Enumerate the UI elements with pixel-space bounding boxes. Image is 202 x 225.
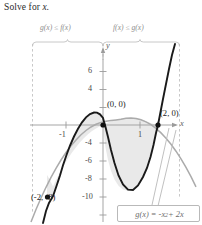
equation-text: g(x) = -x2 + 2x <box>118 206 201 223</box>
y-tick-label-neg4: -4 <box>85 138 92 147</box>
point-label-origin: (0, 0) <box>107 99 126 109</box>
y-tick-label-4: 4 <box>88 84 92 93</box>
bracket-label-left: g(x) ≤ f(x) <box>40 23 71 32</box>
dot-origin <box>100 122 105 127</box>
callout-leader-lines <box>152 128 176 206</box>
dot-two-zero <box>155 122 160 127</box>
y-tick-label-neg6: -6 <box>85 156 92 165</box>
y-tick-label-neg10: -10 <box>82 192 93 201</box>
x-axis-label: x <box>180 119 184 128</box>
point-label-neg-two-neg-eight: (-2, -8) <box>31 192 55 202</box>
y-axis-arrow <box>101 47 105 53</box>
bracket-top-right <box>103 40 180 47</box>
leader-line-b <box>158 130 176 206</box>
y-tick-label-neg8: -8 <box>85 174 92 183</box>
equation-callout-box: g(x) = -x2 + 2x <box>117 205 200 222</box>
bracket-label-right: f(x) ≤ g(x) <box>113 23 144 32</box>
point-label-two-zero: (2, 0) <box>160 108 179 118</box>
y-axis-label: y <box>106 41 110 50</box>
x-axis-arrow <box>172 123 178 127</box>
equation-prefix: g(x) = -x <box>135 210 165 219</box>
equation-suffix: + 2x <box>168 210 184 219</box>
bracket-top-left <box>33 40 104 47</box>
y-tick-label-6: 6 <box>88 66 92 75</box>
figure-root: Solve for x. <box>0 0 202 225</box>
x-tick-label-neg1: -1 <box>59 130 66 139</box>
x-tick-label-1: 1 <box>138 130 142 139</box>
